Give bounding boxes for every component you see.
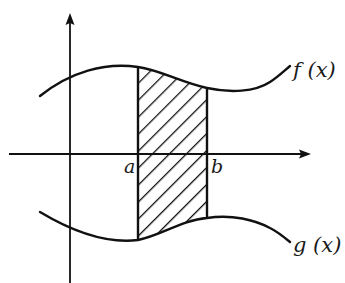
label-b: b (211, 155, 223, 177)
y-axis (66, 13, 75, 283)
label-a: a (124, 155, 135, 177)
shaded-region (130, 60, 215, 250)
label-g: g (x) (293, 233, 341, 257)
label-f: f (x) (291, 58, 336, 82)
area-between-curves-diagram: f (x) g (x) a b (0, 0, 345, 283)
